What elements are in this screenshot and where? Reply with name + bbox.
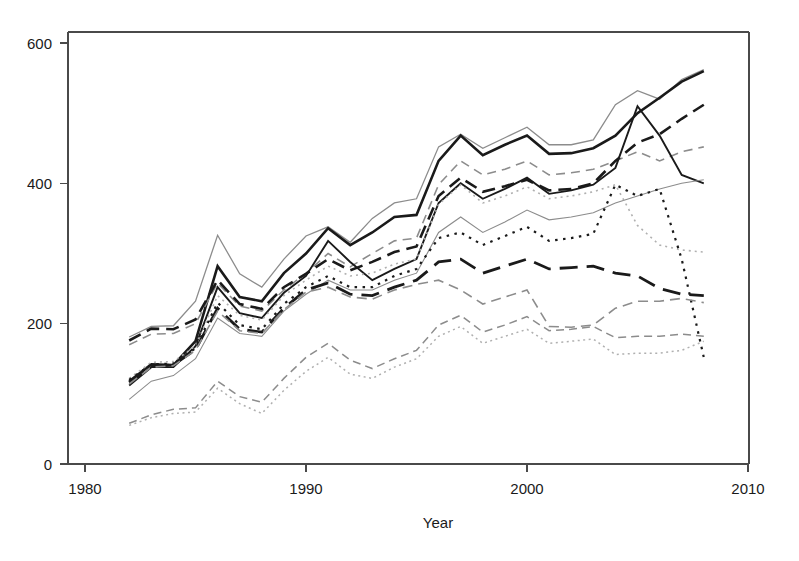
y-tick-label-200: 200 <box>27 315 52 332</box>
series-line-11 <box>129 315 704 423</box>
y-tick-label-0: 0 <box>44 456 52 473</box>
series-line-4 <box>129 105 704 341</box>
series-line-1 <box>129 70 704 337</box>
x-axis-title: Year <box>423 514 453 531</box>
line-chart-svg: 0200400600 1980199020002010 Year <box>0 0 799 561</box>
x-tick-label-2010: 2010 <box>731 480 764 497</box>
y-axis-ticks: 0200400600 <box>27 35 68 473</box>
chart-container: 0200400600 1980199020002010 Year <box>0 0 799 561</box>
y-tick-label-400: 400 <box>27 175 52 192</box>
series-line-2 <box>129 71 704 381</box>
x-axis-ticks: 1980199020002010 <box>68 464 764 497</box>
series-layer <box>129 70 704 426</box>
series-line-12 <box>129 326 704 425</box>
x-tick-label-1980: 1980 <box>68 480 101 497</box>
x-tick-label-2000: 2000 <box>510 480 543 497</box>
x-tick-label-1990: 1990 <box>289 480 322 497</box>
y-tick-label-600: 600 <box>27 35 52 52</box>
